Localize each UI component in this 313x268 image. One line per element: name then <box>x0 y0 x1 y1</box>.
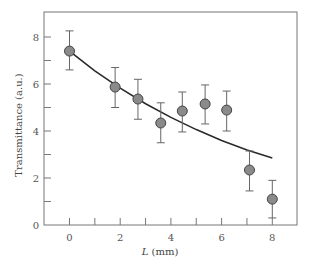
y-tick-label: 0 <box>33 220 39 231</box>
y-axis-label: Transmittance (a.u.) <box>13 73 24 176</box>
y-tick-label: 2 <box>33 173 39 184</box>
x-tick-label: 8 <box>269 232 275 243</box>
data-point <box>133 94 143 104</box>
data-point <box>267 194 277 204</box>
data-point <box>177 106 187 116</box>
data-points <box>65 46 278 204</box>
data-point <box>65 46 75 56</box>
axis-ticks <box>44 37 272 225</box>
x-tick-label: 4 <box>168 232 174 243</box>
x-tick-label: 0 <box>66 232 72 243</box>
data-point <box>244 165 254 175</box>
data-point <box>110 82 120 92</box>
x-axis-unit: (mm) <box>148 246 178 257</box>
data-point <box>200 99 210 109</box>
transmittance-chart: 0246802468 Transmittance (a.u.) L (mm) <box>0 0 313 268</box>
data-point <box>156 118 166 128</box>
y-tick-label: 8 <box>33 32 39 43</box>
error-bars <box>66 31 277 218</box>
x-axis-label: L (mm) <box>141 246 179 257</box>
x-tick-label: 6 <box>218 232 224 243</box>
fit-curve <box>70 51 273 158</box>
plot-frame <box>44 12 297 225</box>
x-tick-label: 2 <box>117 232 123 243</box>
y-tick-label: 6 <box>33 79 39 90</box>
y-tick-label: 4 <box>33 126 39 137</box>
data-point <box>222 105 232 115</box>
